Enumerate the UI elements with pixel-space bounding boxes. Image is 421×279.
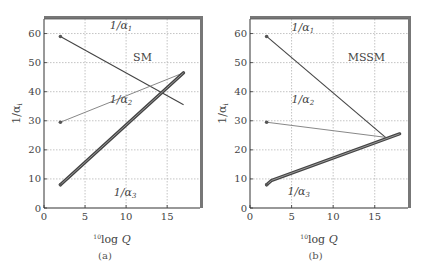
- panel-caption-a: (a): [0, 250, 210, 261]
- x-tick-label: 0: [41, 211, 47, 222]
- chart-panel-sm: 05101501020304050601/αi10log Q1/α11/α21/…: [0, 0, 210, 279]
- series-label: 1/α3: [114, 186, 137, 200]
- y-tick-label: 30: [28, 115, 41, 126]
- y-tick-label: 10: [28, 173, 41, 184]
- x-axis-label: 10log Q: [93, 233, 130, 246]
- x-tick-label: 0: [247, 211, 253, 222]
- y-axis-label: 1/αi: [216, 103, 230, 124]
- series-1-over-alpha2: 1/α2: [59, 73, 184, 124]
- y-tick-label: 30: [234, 115, 247, 126]
- chart-svg-mssm: 05101501020304050601/αi10log Q1/α11/α21/…: [210, 0, 421, 279]
- series-1-over-alpha1: 1/α1: [265, 21, 386, 138]
- series-1-over-alpha2: 1/α2: [265, 93, 386, 137]
- series-label: 1/α1: [292, 21, 315, 35]
- series-label: 1/α3: [287, 185, 310, 199]
- y-tick-label: 40: [28, 86, 41, 97]
- x-tick-label: 15: [368, 211, 381, 222]
- x-tick-label: 15: [161, 211, 174, 222]
- y-tick-label: 20: [234, 144, 247, 155]
- model-label: MSSM: [348, 51, 385, 64]
- series-label: 1/α1: [110, 19, 133, 33]
- series-label: 1/α2: [110, 93, 133, 107]
- x-axis-label: 10log Q: [300, 233, 337, 246]
- x-tick-label: 10: [327, 211, 340, 222]
- y-tick-label: 60: [234, 28, 247, 39]
- y-axis-label: 1/αi: [10, 103, 24, 124]
- x-tick-label: 10: [120, 211, 133, 222]
- y-tick-label: 0: [241, 203, 247, 214]
- series-1-over-alpha3: 1/α3: [265, 134, 400, 199]
- panel-caption-b: (b): [210, 250, 421, 261]
- y-tick-label: 50: [234, 57, 247, 68]
- x-tick-label: 5: [288, 211, 294, 222]
- y-tick-label: 50: [28, 57, 41, 68]
- x-tick-label: 5: [82, 211, 88, 222]
- chart-panel-mssm: 05101501020304050601/αi10log Q1/α11/α21/…: [210, 0, 421, 279]
- y-tick-label: 60: [28, 28, 41, 39]
- y-tick-label: 40: [234, 86, 247, 97]
- y-tick-label: 10: [234, 173, 247, 184]
- model-label: SM: [133, 51, 152, 64]
- chart-svg-sm: 05101501020304050601/αi10log Q1/α11/α21/…: [0, 0, 210, 279]
- series-label: 1/α2: [292, 93, 315, 107]
- y-tick-label: 20: [28, 144, 41, 155]
- y-tick-label: 0: [35, 203, 41, 214]
